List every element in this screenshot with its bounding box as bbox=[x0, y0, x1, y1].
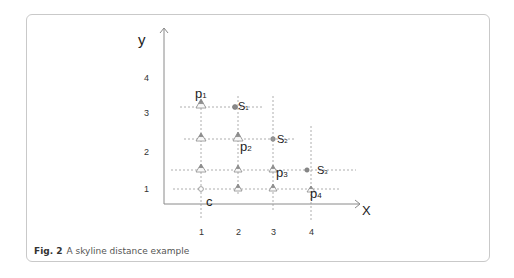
figure-caption: Fig. 2A skyline distance example bbox=[34, 246, 189, 256]
y-tick-label: 3 bbox=[144, 108, 149, 118]
guide-lines bbox=[171, 96, 356, 222]
triangle-icon bbox=[196, 133, 206, 141]
y-tick-label: 2 bbox=[144, 147, 149, 157]
x-tick-label: 2 bbox=[236, 227, 241, 237]
circle-icon bbox=[271, 137, 276, 142]
caption-text: A skyline distance example bbox=[67, 246, 190, 256]
label-s2: S2 bbox=[277, 133, 288, 145]
y-tick-label: 4 bbox=[144, 73, 149, 83]
triangle-icon bbox=[269, 184, 277, 191]
label-p4: p4 bbox=[310, 186, 322, 201]
x-tick-label: 1 bbox=[199, 227, 204, 237]
triangle-icon bbox=[196, 164, 206, 172]
x-tick-label: 3 bbox=[271, 227, 276, 237]
label-s1: S1 bbox=[238, 100, 249, 112]
x-axis-title: X bbox=[362, 203, 371, 218]
label-p1: p1 bbox=[195, 86, 207, 101]
circle-icon bbox=[305, 168, 309, 172]
triangle-icon bbox=[234, 165, 242, 172]
label-c: c bbox=[206, 194, 213, 209]
label-p2: p2 bbox=[240, 139, 252, 154]
y-tick-label: 1 bbox=[144, 184, 149, 194]
axes bbox=[160, 28, 360, 208]
caption-label: Fig. 2 bbox=[34, 246, 63, 256]
triangle-markers bbox=[196, 99, 315, 192]
skyline-chart: 1 2 3 4 4 3 2 1 y X p1 S1 p2 S2 p3 S3 p4… bbox=[0, 0, 514, 278]
circle-icon bbox=[199, 187, 204, 192]
x-tick-label: 4 bbox=[309, 227, 314, 237]
circle-markers bbox=[199, 105, 310, 192]
y-axis-title: y bbox=[138, 31, 146, 48]
label-s3: S3 bbox=[317, 164, 328, 176]
circle-icon bbox=[233, 105, 238, 110]
label-p3: p3 bbox=[276, 165, 288, 180]
triangle-icon bbox=[234, 184, 242, 191]
